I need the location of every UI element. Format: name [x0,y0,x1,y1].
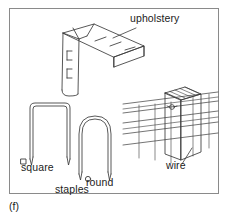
figure-root: upholstery square round staples wire (f) [0,0,232,223]
square-staple-drawing [21,103,70,165]
label-round: round [86,177,113,188]
label-square: square [21,162,54,173]
figure-caption: (f) [9,200,19,212]
label-staples: staples [55,184,89,195]
round-staple-drawing [79,116,111,182]
wire-fence-post-drawing [123,87,218,164]
label-wire: wire [166,160,186,171]
label-upholstery: upholstery [130,13,179,24]
upholstery-staple-drawing [62,24,144,96]
